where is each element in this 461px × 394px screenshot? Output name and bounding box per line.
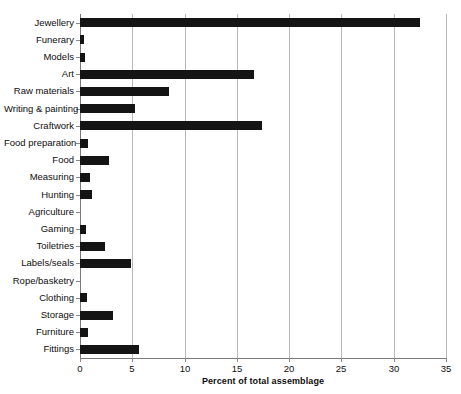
bar-chart: JewelleryFuneraryModelsArtRaw materialsW…: [0, 0, 461, 394]
y-axis-label-rope-basketry: Rope/basketry: [4, 276, 80, 286]
y-axis-label-raw-materials: Raw materials: [4, 86, 80, 96]
x-tick-label-10: 10: [180, 363, 191, 374]
bar-toiletries: [80, 242, 105, 251]
y-axis-label-labels-seals: Labels/seals: [4, 258, 80, 268]
x-tick-label-30: 30: [389, 363, 400, 374]
y-axis-label-craftwork: Craftwork: [4, 121, 80, 131]
bar-models: [80, 53, 85, 62]
bar-craftwork: [80, 121, 262, 130]
y-axis-label-gaming: Gaming: [4, 224, 80, 234]
x-tick-20: [289, 358, 290, 362]
y-axis-label-furniture: Furniture: [4, 327, 80, 337]
x-tick-25: [341, 358, 342, 362]
bar-art: [80, 70, 254, 79]
y-axis-label-measuring: Measuring: [4, 172, 80, 182]
bar-fittings: [80, 345, 139, 354]
bar-furniture: [80, 328, 88, 337]
x-tick-10: [185, 358, 186, 362]
bar-writing-painting: [80, 104, 135, 113]
plot-area: [80, 14, 446, 358]
x-tick-0: [80, 358, 81, 362]
y-axis-labels: JewelleryFuneraryModelsArtRaw materialsW…: [0, 0, 80, 394]
x-tick-15: [237, 358, 238, 362]
bar-funerary: [80, 35, 84, 44]
y-axis-label-food-preparation: Food preparation: [4, 138, 80, 148]
x-tick-label-20: 20: [284, 363, 295, 374]
y-axis-label-jewellery: Jewellery: [4, 18, 80, 28]
bar-gaming: [80, 225, 86, 234]
y-axis-label-toiletries: Toiletries: [4, 241, 80, 251]
bar-food-preparation: [80, 139, 88, 148]
x-axis-title: Percent of total assemblage: [80, 376, 446, 386]
x-tick-label-15: 15: [232, 363, 243, 374]
y-axis-label-models: Models: [4, 52, 80, 62]
x-axis-line: [80, 358, 446, 359]
bar-hunting: [80, 190, 92, 199]
x-tick-label-5: 5: [129, 363, 134, 374]
x-tick-5: [132, 358, 133, 362]
y-axis-label-hunting: Hunting: [4, 190, 80, 200]
y-axis-label-funerary: Funerary: [4, 35, 80, 45]
y-axis-label-storage: Storage: [4, 310, 80, 320]
x-tick-35: [446, 358, 447, 362]
y-axis-label-art: Art: [4, 69, 80, 79]
x-tick-30: [394, 358, 395, 362]
y-axis-label-agriculture: Agriculture: [4, 207, 80, 217]
bar-clothing: [80, 293, 87, 302]
bar-raw-materials: [80, 87, 169, 96]
bar-food: [80, 156, 109, 165]
bar-measuring: [80, 173, 90, 182]
y-axis-label-fittings: Fittings: [4, 344, 80, 354]
gridline-35: [446, 14, 447, 358]
x-tick-label-0: 0: [77, 363, 82, 374]
x-tick-label-35: 35: [441, 363, 452, 374]
x-tick-label-25: 25: [336, 363, 347, 374]
bar-jewellery: [80, 18, 420, 27]
bar-labels-seals: [80, 259, 131, 268]
y-axis-label-food: Food: [4, 155, 80, 165]
y-axis-label-clothing: Clothing: [4, 293, 80, 303]
y-axis-label-writing-painting: Writing & painting: [4, 104, 80, 114]
bar-storage: [80, 311, 113, 320]
